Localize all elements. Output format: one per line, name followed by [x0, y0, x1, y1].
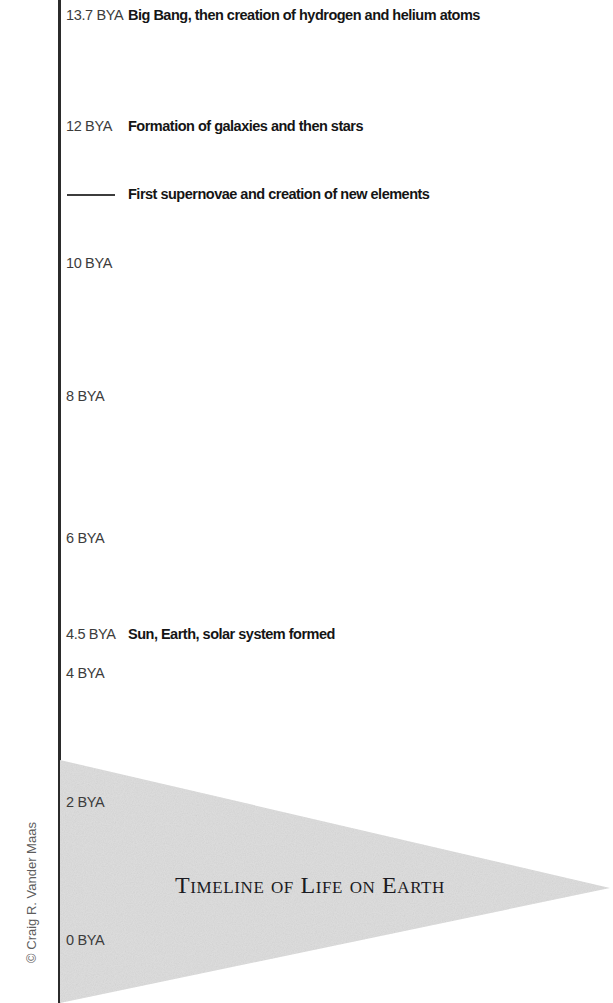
copyright-credit: © Craig R. Vander Maas: [24, 798, 39, 988]
age-label: 8 BYA: [66, 387, 104, 406]
age-label: 12 BYA: [66, 117, 112, 136]
timeline-row: 8 BYA: [0, 387, 613, 407]
event-label: Sun, Earth, solar system formed: [128, 625, 335, 644]
timeline-row: 0 BYA: [0, 931, 613, 951]
event-label: Formation of galaxies and then stars: [128, 117, 363, 136]
age-label: 6 BYA: [66, 529, 104, 548]
pennant-shape: [0, 0, 613, 1003]
age-label: 4.5 BYA: [66, 625, 116, 644]
tick-dash-marker: [67, 194, 115, 196]
timeline-row: 10 BYA: [0, 254, 613, 274]
timeline-row: 2 BYA: [0, 793, 613, 813]
timeline-row: 4 BYA: [0, 664, 613, 684]
timeline-figure: 13.7 BYA Big Bang, then creation of hydr…: [0, 0, 613, 1003]
event-label: First supernovae and creation of new ele…: [128, 185, 429, 204]
timeline-row: 12 BYA Formation of galaxies and then st…: [0, 117, 613, 137]
event-label: Big Bang, then creation of hydrogen and …: [128, 6, 480, 25]
age-label: 10 BYA: [66, 254, 112, 273]
age-label: 4 BYA: [66, 664, 104, 683]
age-label: 0 BYA: [66, 931, 104, 950]
timeline-row: First supernovae and creation of new ele…: [0, 185, 613, 205]
age-label: 13.7 BYA: [66, 6, 123, 25]
age-label: 2 BYA: [66, 793, 104, 812]
timeline-axis-line: [58, 0, 61, 1003]
timeline-row: 4.5 BYA Sun, Earth, solar system formed: [0, 625, 613, 645]
timeline-row: 6 BYA: [0, 529, 613, 549]
timeline-row: 13.7 BYA Big Bang, then creation of hydr…: [0, 6, 613, 26]
figure-title: Timeline of Life on Earth: [132, 871, 488, 899]
